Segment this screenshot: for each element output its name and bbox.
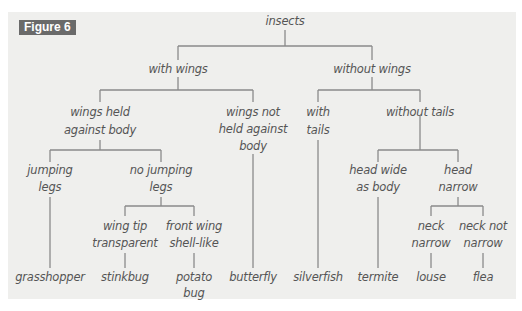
node-without-tails: without tails xyxy=(386,104,454,120)
node-front-wing-line2: shell-like xyxy=(169,235,218,251)
node-wings-held-line2: against body xyxy=(64,122,136,138)
node-head-wide-line2: as body xyxy=(356,179,400,195)
leaf-butterfly: butterfly xyxy=(229,269,277,285)
node-wings-not-line2: held against xyxy=(219,121,288,137)
node-neck-narrow-line2: narrow xyxy=(411,235,450,251)
node-wings-held-line1: wings held xyxy=(70,104,130,120)
leaf-potato-bug-line1: potato xyxy=(176,269,212,285)
node-head-narrow-line2: narrow xyxy=(438,179,477,195)
node-wings-not-line1: wings not xyxy=(226,104,280,120)
node-jumping-line2: legs xyxy=(39,179,62,195)
node-neck-not-line2: narrow xyxy=(463,235,502,251)
node-wing-tip-line1: wing tip xyxy=(103,218,147,234)
node-head-narrow-line1: head xyxy=(444,162,472,178)
node-with-tails-line1: with xyxy=(306,104,330,120)
node-neck-narrow-line1: neck xyxy=(418,218,445,234)
node-wing-tip-line2: transparent xyxy=(92,235,157,251)
node-with-wings: with wings xyxy=(148,61,207,77)
leaf-stinkbug: stinkbug xyxy=(101,269,149,285)
node-with-tails-line2: tails xyxy=(307,122,330,138)
node-wings-not-line3: body xyxy=(239,138,267,154)
tree-connectors xyxy=(0,0,522,311)
node-jumping-line1: jumping xyxy=(27,162,72,178)
node-without-wings: without wings xyxy=(333,61,410,77)
node-front-wing-line1: front wing xyxy=(166,218,222,234)
node-no-jumping-line1: no jumping xyxy=(130,162,193,178)
leaf-louse: louse xyxy=(416,269,446,285)
node-no-jumping-line2: legs xyxy=(150,179,173,195)
leaf-potato-bug-line2: bug xyxy=(183,285,204,301)
leaf-silverfish: silverfish xyxy=(293,269,343,285)
node-head-wide-line1: head wide xyxy=(349,162,407,178)
node-insects: insects xyxy=(266,13,305,29)
node-neck-not-line1: neck not xyxy=(459,218,507,234)
leaf-grasshopper: grasshopper xyxy=(15,269,85,285)
leaf-flea: flea xyxy=(473,269,494,285)
leaf-termite: termite xyxy=(358,269,399,285)
